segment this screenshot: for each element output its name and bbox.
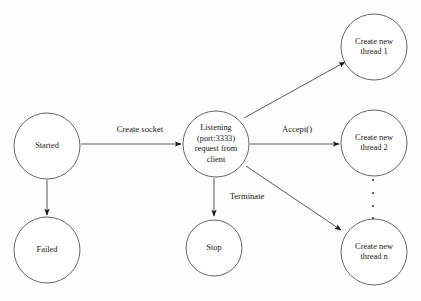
ellipsis-dot (372, 192, 374, 194)
node-threadn[interactable]: Create newthread n (341, 219, 407, 285)
ellipsis-dot (372, 205, 374, 207)
edge-label-listening-to-thread2: Accept() (282, 124, 312, 134)
node-started[interactable]: Started (14, 113, 80, 179)
node-label-thread1: Create new (355, 37, 394, 46)
node-label-thread1: thread 1 (360, 47, 387, 56)
ellipsis-layer (372, 179, 374, 219)
ellipsis-dot (372, 179, 374, 181)
nodes-layer: StartedFailedListening(port:3333)request… (14, 14, 407, 285)
node-label-threadn: thread n (360, 252, 388, 261)
node-label-listening: (port:3333) (197, 134, 235, 143)
diagram-canvas: StartedFailedListening(port:3333)request… (0, 0, 421, 301)
edge-label-listening-to-stop: Terminate (230, 191, 265, 201)
node-label-thread2: thread 2 (360, 143, 387, 152)
node-label-listening: client (207, 155, 226, 164)
state-diagram: StartedFailedListening(port:3333)request… (0, 0, 421, 301)
node-label-started: Started (35, 141, 60, 150)
node-label-stop: Stop (206, 243, 221, 252)
node-label-thread2: Create new (355, 133, 394, 142)
node-label-listening: Listening (200, 123, 232, 132)
edge-listening-to-thread1 (244, 62, 345, 118)
node-label-listening: request from (195, 144, 238, 153)
node-thread2[interactable]: Create newthread 2 (341, 110, 407, 176)
node-listening[interactable]: Listening(port:3333)request fromclient (183, 111, 249, 177)
node-label-failed: Failed (37, 245, 59, 254)
node-thread1[interactable]: Create newthread 1 (341, 14, 407, 80)
node-stop[interactable]: Stop (186, 220, 242, 276)
node-failed[interactable]: Failed (14, 217, 80, 283)
ellipsis-dot (372, 217, 374, 219)
edge-label-started-to-listening: Create socket (117, 124, 164, 134)
node-label-threadn: Create new (355, 242, 394, 251)
